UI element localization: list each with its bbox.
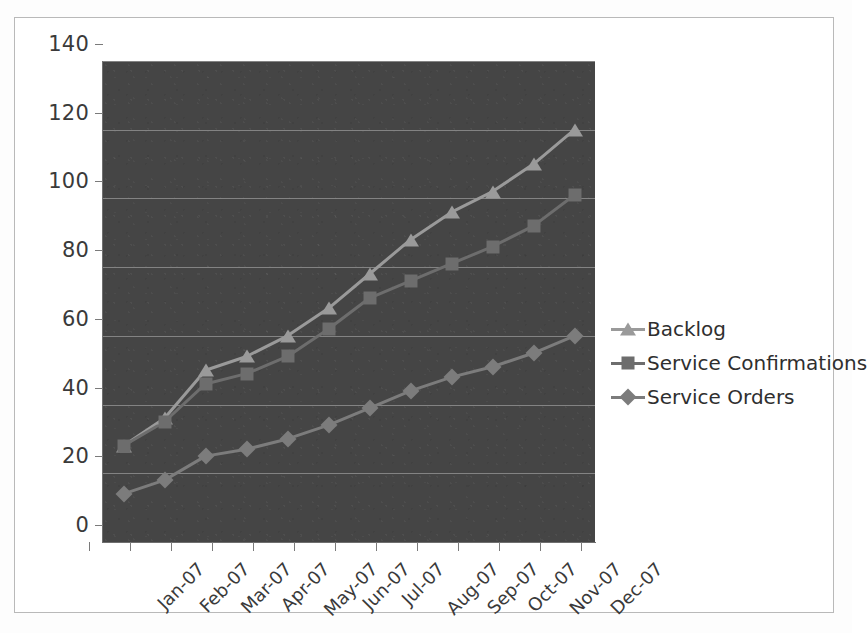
data-point-marker bbox=[240, 367, 253, 380]
x-tick-mark-9 bbox=[458, 542, 459, 551]
x-tick-mark-12 bbox=[581, 542, 582, 551]
legend-key-triangle-icon bbox=[611, 320, 645, 338]
data-point-marker bbox=[198, 364, 214, 377]
y-axis-tick-labels: 020406080100120140 bbox=[37, 18, 89, 633]
x-tick-mark-4 bbox=[253, 542, 254, 551]
y-tick-label-140: 140 bbox=[48, 32, 89, 56]
plot-area bbox=[103, 61, 595, 542]
data-point-marker bbox=[363, 292, 376, 305]
y-tick-mark-0 bbox=[95, 525, 103, 526]
data-point-marker bbox=[486, 240, 499, 253]
series-line-service-orders bbox=[124, 336, 575, 494]
legend-label: Service Confirmations bbox=[647, 351, 867, 375]
y-tick-label-20: 20 bbox=[62, 444, 89, 468]
y-tick-label-40: 40 bbox=[62, 376, 89, 400]
data-point-marker bbox=[239, 350, 255, 363]
chart-frame: 020406080100120140 Jan-07Feb-07Mar-07Apr… bbox=[14, 17, 834, 613]
legend-marker-square-icon bbox=[622, 357, 635, 370]
y-tick-label-0: 0 bbox=[75, 513, 89, 537]
data-point-marker bbox=[567, 123, 583, 136]
x-tick-mark-0 bbox=[89, 542, 90, 551]
y-tick-mark-80 bbox=[95, 250, 103, 251]
chart-legend: BacklogService ConfirmationsService Orde… bbox=[611, 312, 847, 414]
y-axis-line bbox=[102, 61, 103, 543]
x-tick-mark-10 bbox=[499, 542, 500, 551]
legend-key-diamond-icon bbox=[611, 388, 645, 406]
y-tick-mark-120 bbox=[95, 113, 103, 114]
x-tick-mark-8 bbox=[417, 542, 418, 551]
legend-marker-diamond-icon bbox=[620, 389, 637, 406]
y-tick-mark-140 bbox=[95, 44, 103, 45]
data-point-marker bbox=[281, 350, 294, 363]
data-point-marker bbox=[404, 274, 417, 287]
data-point-marker bbox=[321, 302, 337, 315]
data-point-marker bbox=[117, 439, 130, 452]
legend-item-backlog[interactable]: Backlog bbox=[611, 312, 847, 346]
data-point-marker bbox=[527, 219, 540, 232]
data-point-marker bbox=[403, 233, 419, 246]
x-tick-mark-7 bbox=[376, 542, 377, 551]
data-point-marker bbox=[485, 185, 501, 198]
x-tick-mark-6 bbox=[335, 542, 336, 551]
legend-item-service-confirmations[interactable]: Service Confirmations bbox=[611, 346, 847, 380]
data-point-marker bbox=[445, 257, 458, 270]
data-point-marker bbox=[199, 377, 212, 390]
data-point-marker bbox=[322, 322, 335, 335]
y-tick-label-120: 120 bbox=[48, 101, 89, 125]
y-tick-mark-20 bbox=[95, 456, 103, 457]
x-tick-mark-5 bbox=[294, 542, 295, 551]
legend-label: Backlog bbox=[647, 317, 726, 341]
x-tick-mark-2 bbox=[171, 542, 172, 551]
x-tick-mark-1 bbox=[130, 542, 131, 551]
y-tick-mark-60 bbox=[95, 319, 103, 320]
x-tick-mark-3 bbox=[212, 542, 213, 551]
data-point-marker bbox=[444, 206, 460, 219]
legend-marker-triangle-icon bbox=[620, 323, 636, 336]
data-point-marker bbox=[280, 329, 296, 342]
y-tick-label-80: 80 bbox=[62, 238, 89, 262]
series-line-service-confirmations bbox=[124, 195, 575, 446]
legend-item-service-orders[interactable]: Service Orders bbox=[611, 380, 847, 414]
x-axis-line bbox=[103, 542, 596, 543]
y-tick-mark-100 bbox=[95, 181, 103, 182]
y-tick-label-60: 60 bbox=[62, 307, 89, 331]
x-tick-mark-11 bbox=[540, 542, 541, 551]
y-tick-label-100: 100 bbox=[48, 169, 89, 193]
y-tick-mark-40 bbox=[95, 388, 103, 389]
data-point-marker bbox=[158, 415, 171, 428]
data-point-marker bbox=[362, 268, 378, 281]
data-point-marker bbox=[526, 158, 542, 171]
series-lines bbox=[103, 61, 595, 542]
legend-label: Service Orders bbox=[647, 385, 795, 409]
data-point-marker bbox=[568, 188, 581, 201]
legend-key-square-icon bbox=[611, 354, 645, 372]
